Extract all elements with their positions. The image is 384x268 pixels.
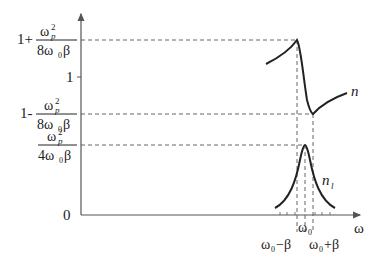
svg-text:0: 0 — [59, 156, 63, 165]
svg-text:ω: ω — [298, 220, 307, 235]
svg-text:4ω: 4ω — [38, 148, 54, 163]
y-label-peak: ω p 2 4ω 0 β — [38, 127, 77, 165]
svg-text:β: β — [64, 148, 71, 163]
svg-text:β: β — [63, 43, 70, 58]
svg-text:1-: 1- — [20, 105, 33, 121]
svg-text:0: 0 — [319, 245, 323, 254]
svg-text:2: 2 — [55, 96, 60, 106]
svg-text:0: 0 — [58, 51, 62, 60]
x-label-center: ω 0 — [298, 220, 312, 237]
y-label-upper: 1+ ω p 2 8ω 0 β — [17, 22, 77, 60]
diagram-canvas: 1+ ω p 2 8ω 0 β 1 1- ω p 2 8ω 0 β ω p 2 … — [0, 0, 384, 268]
svg-text:2: 2 — [58, 127, 63, 137]
svg-text:n: n — [322, 172, 330, 188]
svg-text:ω: ω — [261, 237, 270, 252]
svg-text:l: l — [331, 181, 334, 191]
svg-text:β: β — [63, 117, 70, 132]
svg-text:8ω: 8ω — [37, 43, 53, 58]
x-label-right: ω 0 +β — [309, 237, 339, 254]
y-label-one: 1 — [66, 69, 74, 85]
curve-label-nl: n l — [322, 172, 334, 191]
svg-text:ω: ω — [40, 24, 49, 39]
svg-text:0: 0 — [308, 228, 312, 237]
svg-text:ω: ω — [47, 129, 56, 144]
svg-text:ω: ω — [44, 98, 53, 113]
svg-text:0: 0 — [271, 245, 275, 254]
svg-text:1+: 1+ — [17, 31, 33, 47]
x-label-left: ω 0 −β — [261, 237, 291, 254]
svg-text:+β: +β — [324, 237, 339, 252]
svg-text:2: 2 — [51, 22, 56, 32]
x-axis-label: ω — [354, 220, 364, 236]
y-label-zero: 0 — [63, 207, 71, 223]
curve-label-n: n — [351, 83, 359, 99]
svg-text:−β: −β — [276, 237, 291, 252]
refractive-index-curve — [266, 40, 347, 114]
svg-text:ω: ω — [309, 237, 318, 252]
dashed-guides — [81, 40, 313, 232]
